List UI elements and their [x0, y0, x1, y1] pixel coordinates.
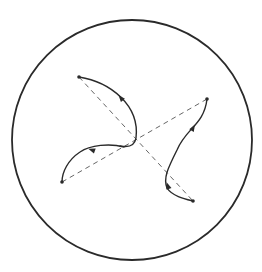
endpoints: [60, 75, 209, 203]
endpoint-bottom-left: [60, 180, 64, 184]
endpoint-top-left: [77, 75, 81, 79]
diagram-svg: [0, 0, 262, 272]
endpoint-right: [205, 97, 209, 101]
dashed-line-bottom-left-right: [62, 99, 207, 182]
curve-top-left-to-center: [79, 77, 136, 147]
curve-bottom-to-bottom-right: [167, 188, 193, 201]
diagram-canvas: [0, 0, 262, 272]
curves: [62, 77, 207, 201]
endpoint-bottom-right: [191, 199, 195, 203]
dashed-lines: [62, 77, 207, 201]
outer-circle: [12, 20, 252, 260]
curve-right-to-bottom: [166, 99, 207, 188]
